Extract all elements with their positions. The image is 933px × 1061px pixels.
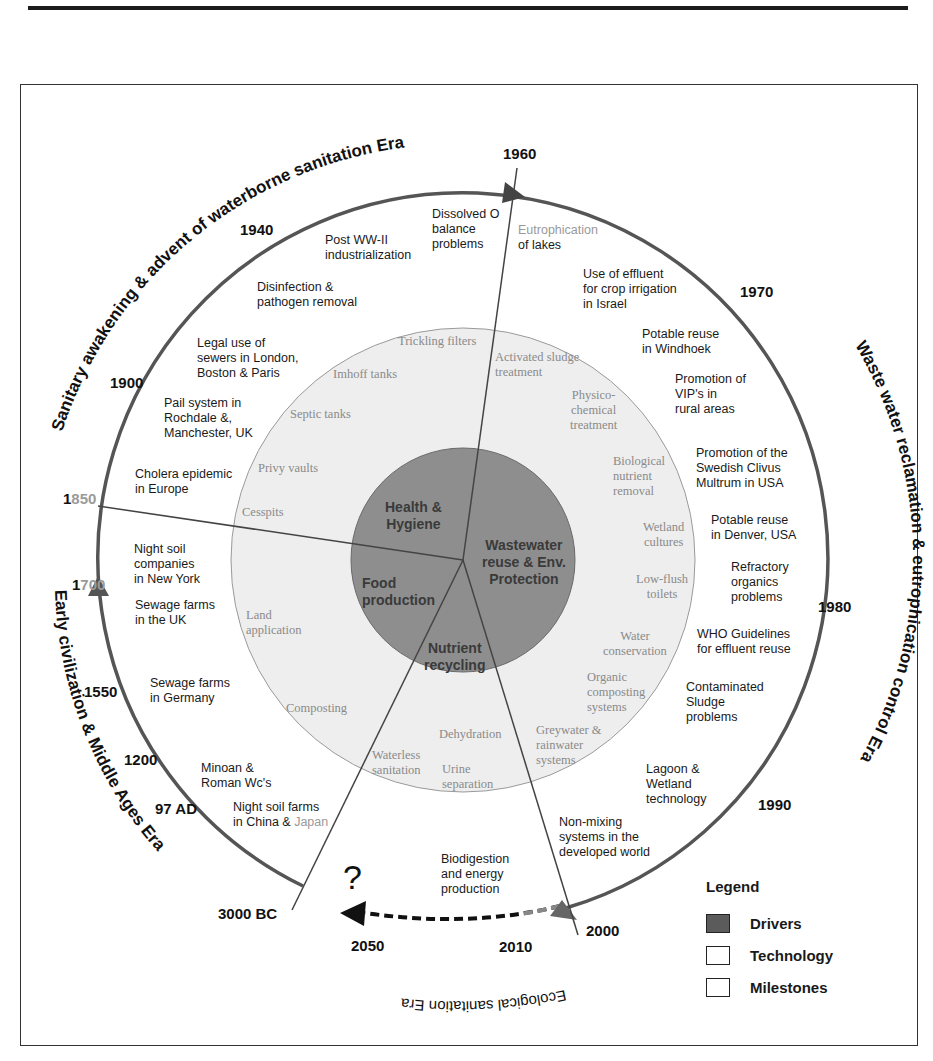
year-2000: 2000 xyxy=(586,922,619,939)
milestone-sewage-farms-uk: Sewage farmsin the UK xyxy=(135,598,215,628)
era-label-ecological: Ecological sanitation Era xyxy=(399,987,567,1015)
year-97ad: 97 AD xyxy=(155,800,197,817)
milestone-clivus-multrum: Promotion of theSwedish ClivusMultrum in… xyxy=(696,446,788,491)
driver-food-production: Foodproduction xyxy=(362,575,435,609)
year-1980: 1980 xyxy=(818,598,851,615)
legend-item-technology: Technology xyxy=(706,939,876,971)
year-1940: 1940 xyxy=(240,221,273,238)
tech-imhoff-tanks: Imhoff tanks xyxy=(333,367,397,382)
driver-health-hygiene: Health &Hygiene xyxy=(385,499,442,533)
milestone-refractory-organics: Refractoryorganicsproblems xyxy=(731,560,789,605)
milestone-lagoon-wetland: Lagoon &Wetlandtechnology xyxy=(646,762,706,807)
era-label-reclamation: Waste water reclamation & eutrophication… xyxy=(852,337,928,766)
year-2010: 2010 xyxy=(499,938,532,955)
year-1550: 1550 xyxy=(84,683,117,700)
tech-urine-separation: Urineseparation xyxy=(442,762,493,792)
tech-physico-chemical: Physico-chemicaltreatment xyxy=(570,388,617,433)
milestone-night-soil-china: Night soil farmsin China & Japan xyxy=(233,800,328,830)
milestones-swatch-icon xyxy=(706,978,730,997)
tech-septic-tanks: Septic tanks xyxy=(290,407,351,422)
year-1970: 1970 xyxy=(740,283,773,300)
driver-nutrient-recycling: Nutrientrecycling xyxy=(424,640,485,674)
svg-text:Waste water reclamation & eutr: Waste water reclamation & eutrophication… xyxy=(852,337,928,766)
milestone-windhoek: Potable reusein Windhoek xyxy=(642,327,719,357)
milestone-minoan-roman: Minoan &Roman Wc's xyxy=(201,761,271,791)
milestone-dissolved-oxygen: Dissolved Obalanceproblems xyxy=(432,207,499,252)
year-2050: 2050 xyxy=(351,937,384,954)
milestone-vip: Promotion ofVIP's inrural areas xyxy=(675,372,746,417)
technology-swatch-icon xyxy=(706,946,730,965)
tech-composting: Composting xyxy=(286,701,347,716)
milestone-post-ww2: Post WW-IIindustrialization xyxy=(325,233,411,263)
tech-land-application: Landapplication xyxy=(246,608,302,638)
era-label-early: Early civilization & Middle Ages Era xyxy=(51,589,170,854)
milestone-biodigestion: Biodigestionand energyproduction xyxy=(441,852,509,897)
milestone-contaminated-sludge: ContaminatedSludgeproblems xyxy=(686,680,764,725)
svg-text:Ecological sanitation Era: Ecological sanitation Era xyxy=(399,987,567,1015)
year-1700: 1700 xyxy=(72,576,105,593)
year-1850: 1850 xyxy=(63,490,96,507)
svg-text:Early civilization & Middle Ag: Early civilization & Middle Ages Era xyxy=(51,589,170,854)
tech-organic-composting: Organiccompostingsystems xyxy=(587,670,645,715)
year-3000bc: 3000 BC xyxy=(218,905,277,922)
legend: Legend Drivers Technology Milestones xyxy=(706,878,876,1003)
tech-activated-sludge: Activated sludgetreatment xyxy=(495,350,579,380)
milestone-non-mixing: Non-mixingsystems in thedeveloped world xyxy=(559,815,650,860)
milestone-effluent-israel: Use of effluentfor crop irrigationin Isr… xyxy=(583,267,677,312)
driver-wastewater-reuse: Wastewaterreuse & Env.Protection xyxy=(482,537,566,588)
milestone-who-guidelines: WHO Guidelinesfor effluent reuse xyxy=(697,627,791,657)
tech-waterless-sanitation: Waterlesssanitation xyxy=(372,748,421,778)
tech-water-conservation: Waterconservation xyxy=(603,629,667,659)
legend-item-milestones: Milestones xyxy=(706,971,876,1003)
drivers-swatch-icon xyxy=(706,914,730,933)
arrow-2050-icon xyxy=(340,901,366,926)
year-1990: 1990 xyxy=(758,796,791,813)
milestone-eutrophication-lakes: Eutrophicationof lakes xyxy=(518,223,598,253)
tech-greywater-rainwater: Greywater &rainwatersystems xyxy=(536,723,602,768)
milestone-sewage-farms-germany: Sewage farmsin Germany xyxy=(150,676,230,706)
year-1900: 1900 xyxy=(110,374,143,391)
tech-wetland-cultures: Wetlandcultures xyxy=(643,520,684,550)
legend-item-drivers: Drivers xyxy=(706,907,876,939)
tech-dehydration: Dehydration xyxy=(439,727,501,742)
tech-low-flush-toilets: Low-flushtoilets xyxy=(636,572,688,602)
legend-title: Legend xyxy=(706,878,876,895)
milestone-cholera: Cholera epidemicin Europe xyxy=(135,467,232,497)
milestone-denver: Potable reusein Denver, USA xyxy=(711,513,796,543)
tech-trickling-filters: Trickling filters xyxy=(398,334,476,349)
milestone-legal-sewers: Legal use ofsewers in London,Boston & Pa… xyxy=(197,336,298,381)
tech-biological-nutrient-removal: Biologicalnutrientremoval xyxy=(613,454,665,499)
question-mark-icon: ? xyxy=(343,858,362,897)
milestone-night-soil-ny: Night soilcompaniesin New York xyxy=(134,542,200,587)
tech-privy-vaults: Privy vaults xyxy=(258,461,318,476)
tech-cesspits: Cesspits xyxy=(242,505,284,520)
milestone-disinfection: Disinfection &pathogen removal xyxy=(257,280,357,310)
year-1960: 1960 xyxy=(503,145,536,162)
year-1200: 1200 xyxy=(124,751,157,768)
milestone-pail-system: Pail system inRochdale &,Manchester, UK xyxy=(164,396,253,441)
